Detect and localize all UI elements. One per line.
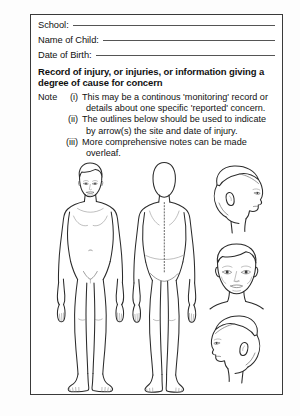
note-text-i-line1: This may be a continous 'monitoring' rec… (82, 92, 277, 103)
field-row-name-of-child: Name of Child: (38, 35, 275, 50)
note-item-ii: (ii) The outlines below should be used t… (38, 114, 277, 125)
note-item-i: Note (i) This may be a continous 'monito… (38, 92, 277, 103)
note-word-label: Note (38, 92, 63, 103)
form-frame: School: Name of Child: Date of Birth: Re… (30, 14, 283, 395)
school-input-rule[interactable] (73, 24, 275, 26)
identification-fields: School: Name of Child: Date of Birth: (38, 20, 275, 65)
note-item-iii: (iii) More comprehensive notes can be ma… (38, 137, 277, 148)
body-front-view[interactable] (53, 159, 127, 395)
head-left-profile[interactable] (201, 313, 273, 389)
field-row-date-of-birth: Date of Birth: (38, 50, 275, 65)
note-text-ii-line2: by arrow(s) the site and date of injury. (38, 126, 277, 137)
school-label: School: (38, 20, 69, 30)
note-text-iii-line1: More comprehensive notes can be made (82, 137, 277, 148)
worksheet-page: School: Name of Child: Date of Birth: Re… (0, 0, 300, 416)
form-heading: Record of injury, or injuries, or inform… (38, 66, 276, 89)
note-numeral-ii: (ii) (63, 114, 82, 125)
note-text-ii-line1: The outlines below should be used to ind… (82, 114, 277, 125)
date-of-birth-label: Date of Birth: (38, 50, 92, 60)
head-right-profile[interactable] (201, 163, 273, 239)
note-text-i-line2: details about one specific 'reported' co… (38, 103, 277, 114)
date-of-birth-input-rule[interactable] (96, 54, 275, 56)
name-of-child-input-rule[interactable] (103, 39, 275, 41)
name-of-child-label: Name of Child: (38, 35, 99, 45)
notes-block: Note (i) This may be a continous 'monito… (38, 92, 277, 159)
field-row-school: School: (38, 20, 275, 35)
head-front-view[interactable] (201, 241, 273, 311)
body-outline-diagrams (31, 155, 282, 395)
note-numeral-i: (i) (63, 92, 82, 103)
note-numeral-iii: (iii) (63, 137, 82, 148)
body-back-view[interactable] (129, 159, 199, 395)
